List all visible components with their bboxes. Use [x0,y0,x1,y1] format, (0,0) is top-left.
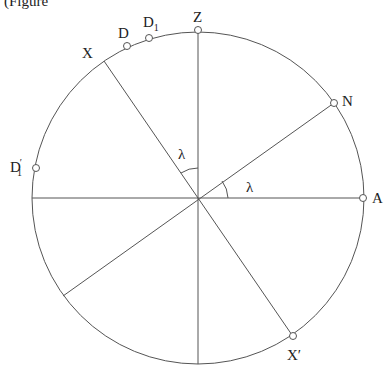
lambda-arc-upper [181,168,198,173]
point-z [195,27,202,34]
label-a: A [372,190,383,206]
label-n: N [342,93,353,109]
point-a [360,195,367,202]
label-d1-prime: D′1 [10,157,22,178]
label-d1: D1 [143,14,159,33]
celestial-diagram: (Figure Z D1 D X N A D′1 X′ λ λ [0,0,388,378]
label-lambda-right: λ [246,179,254,195]
point-n [331,100,338,107]
point-x-prime [290,333,297,340]
point-d1 [146,35,153,42]
point-d1-prime [33,165,40,172]
caption-fragment: (Figure [4,0,49,10]
label-z: Z [193,9,202,25]
lambda-arc-right [222,181,228,198]
label-lambda-upper: λ [178,146,186,162]
label-d: D [118,25,129,41]
label-x-prime: X′ [287,347,301,363]
label-x: X [82,45,93,61]
point-d [124,43,131,50]
